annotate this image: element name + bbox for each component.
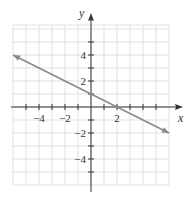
y-axis-label: y bbox=[78, 6, 85, 20]
axes bbox=[11, 13, 183, 192]
y-axis-arrow-icon bbox=[88, 13, 94, 21]
x-tick-label: 2 bbox=[114, 112, 120, 124]
graph-svg: −4−2242−2−4 x y bbox=[0, 0, 188, 204]
y-tick-label: −2 bbox=[74, 127, 86, 139]
x-tick-label: −4 bbox=[33, 112, 45, 124]
y-tick-label: −4 bbox=[74, 153, 86, 165]
x-tick-label: −2 bbox=[59, 112, 71, 124]
coordinate-plane: −4−2242−2−4 x y bbox=[0, 0, 188, 204]
y-tick-label: 4 bbox=[81, 49, 87, 61]
x-axis-arrow-icon bbox=[175, 104, 183, 110]
y-tick-label: 2 bbox=[81, 75, 87, 87]
x-axis-label: x bbox=[177, 111, 184, 125]
